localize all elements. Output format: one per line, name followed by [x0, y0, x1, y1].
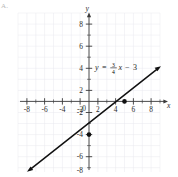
- y-tick-label: 4: [79, 64, 83, 73]
- cartesian-plot: -8 -6 -4 -2 0 2 4 6 8 8 6 4 2 -2 -4 -6 -…: [0, 0, 178, 177]
- y-tick-label: 2: [79, 86, 83, 95]
- equation-lhs: y: [94, 63, 99, 72]
- x-axis: [20, 98, 168, 104]
- x-tick-label: 4: [114, 105, 118, 114]
- equation-equals: =: [102, 63, 107, 72]
- line-series: [27, 66, 161, 172]
- x-tick-label: -8: [24, 105, 30, 114]
- y-axis-label: y: [85, 4, 90, 13]
- equation-variable: x: [118, 63, 123, 72]
- equation-constant: 3: [133, 63, 137, 72]
- x-tick-label: 8: [149, 105, 153, 114]
- y-tick-label: -8: [77, 166, 83, 175]
- equation-numerator: 3: [112, 62, 115, 68]
- y-axis: [86, 13, 92, 171]
- graph-figure: A.: [0, 0, 178, 177]
- x-tick-label: -4: [59, 105, 65, 114]
- x-tick-label: 2: [96, 105, 100, 114]
- y-tick-label: -2: [77, 108, 83, 117]
- data-point-x-intercept: [122, 99, 127, 104]
- x-axis-label: x: [166, 101, 171, 110]
- y-tick-label: -6: [77, 152, 83, 161]
- y-tick-label: 8: [79, 20, 83, 29]
- equation-minus: −: [125, 63, 130, 72]
- y-tick-label: 6: [79, 42, 83, 51]
- equation-denominator: 4: [112, 69, 115, 75]
- x-tick-label: 6: [132, 105, 136, 114]
- data-point-y-intercept: [87, 132, 92, 137]
- x-tick-label: -6: [42, 105, 48, 114]
